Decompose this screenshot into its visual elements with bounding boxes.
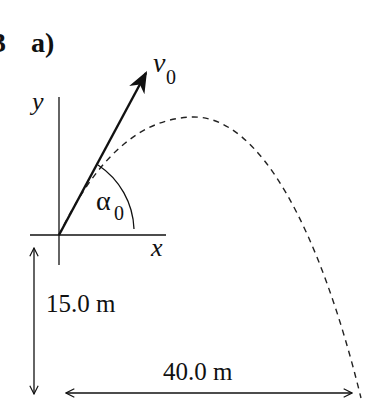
height-label: 15.0 m xyxy=(46,290,116,317)
projectile-diagram: 3 a) y x v 0 α 0 15.0 m 40.0 m xyxy=(0,0,367,416)
angle-subscript: 0 xyxy=(114,202,124,224)
trajectory-path xyxy=(59,117,361,398)
angle-symbol: α xyxy=(96,185,111,216)
velocity-symbol: v xyxy=(153,47,166,78)
part-label: a) xyxy=(31,27,54,58)
y-axis-label: y xyxy=(29,87,44,116)
x-axis-label: x xyxy=(150,233,163,262)
velocity-subscript: 0 xyxy=(166,66,176,88)
problem-number: 3 xyxy=(0,27,6,58)
distance-label: 40.0 m xyxy=(163,358,233,385)
